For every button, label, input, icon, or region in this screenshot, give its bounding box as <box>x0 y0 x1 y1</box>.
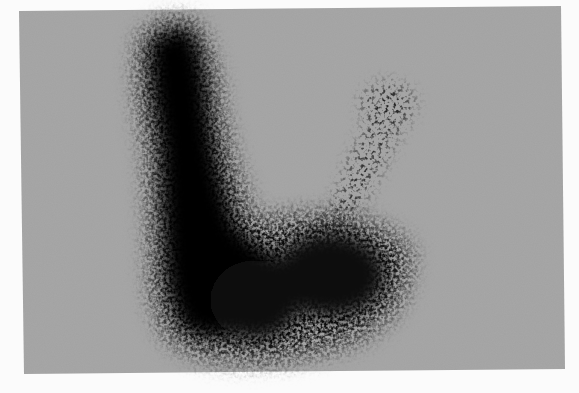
scintigraphy-image <box>0 0 579 393</box>
image-canvas <box>0 0 579 393</box>
